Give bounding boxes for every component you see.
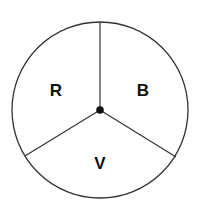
section-label-v: V: [94, 154, 106, 173]
section-label-r: R: [50, 81, 62, 100]
center-pivot: [96, 106, 104, 114]
section-label-b: B: [137, 81, 149, 100]
spinner-diagram: R B V: [0, 0, 198, 209]
